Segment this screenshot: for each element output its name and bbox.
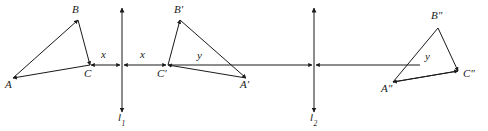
geometry-figure: A B C C' B' A' A" B" C" x x y y l1 l2 — [0, 0, 488, 131]
measure-label-y-middle: y — [197, 50, 202, 61]
vertex-label-A: A — [5, 79, 12, 90]
measure-label-y-right: y — [425, 51, 430, 62]
segment-A-to-B — [13, 20, 78, 78]
vertex-label-C: C — [84, 68, 91, 79]
figure-canvas — [0, 0, 488, 131]
segment-B-to-C — [78, 20, 90, 65]
vertex-label-B-double: B" — [431, 10, 442, 21]
segment-C-to-A — [13, 65, 90, 78]
vertex-label-C-prime: C' — [157, 68, 167, 79]
vertex-label-A-prime: A' — [240, 79, 249, 90]
segment-Aprime-to-Cprime — [168, 65, 246, 78]
vertex-label-B: B — [72, 4, 79, 15]
mirror-line-label-l2-base: l — [310, 111, 313, 123]
mirror-line-label-l1: l1 — [118, 112, 125, 126]
segment-Adouble-to-Bdouble — [393, 28, 438, 82]
measure-label-x-left: x — [101, 49, 106, 60]
measure-label-x-right: x — [140, 49, 145, 60]
vertex-label-B-prime: B' — [174, 4, 183, 15]
segment-Adouble-to-Cdouble — [393, 71, 458, 82]
segment-Bdouble-to-Cdouble — [438, 28, 458, 71]
vertex-label-C-double: C" — [463, 68, 475, 79]
mirror-line-label-l2-subscript: 2 — [314, 119, 318, 128]
triangle-A-prime-B-prime-C-prime — [168, 20, 246, 78]
mirror-line-label-l1-subscript: 1 — [122, 119, 126, 128]
mirror-line-label-l2: l2 — [310, 112, 317, 126]
triangle-ABC — [13, 20, 90, 78]
segment-Bprime-to-Aprime — [180, 20, 246, 78]
segment-Cprime-to-Bprime — [168, 20, 180, 65]
mirror-line-label-l1-base: l — [118, 111, 121, 123]
vertex-label-A-double: A" — [381, 83, 392, 94]
